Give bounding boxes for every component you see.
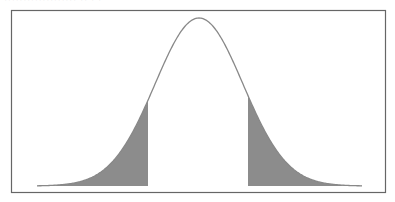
plot-frame [12,11,386,193]
normal-distribution-diagram [0,0,395,202]
